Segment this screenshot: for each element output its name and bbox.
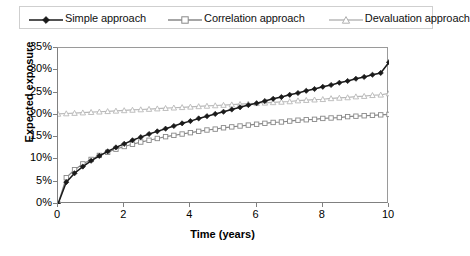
y-tick-mark bbox=[53, 47, 57, 48]
y-tick-mark bbox=[53, 158, 57, 159]
series-marker bbox=[155, 136, 159, 140]
series-marker bbox=[312, 117, 316, 121]
y-tick-label: 15% bbox=[6, 129, 52, 141]
series-marker bbox=[304, 118, 308, 122]
series-marker bbox=[287, 92, 292, 97]
series-marker bbox=[320, 84, 325, 89]
x-tick-label: 4 bbox=[169, 208, 209, 220]
series-canvas bbox=[58, 48, 389, 204]
series-marker bbox=[213, 127, 217, 131]
series-marker bbox=[180, 132, 184, 136]
series-marker bbox=[254, 122, 258, 126]
series-marker bbox=[387, 112, 389, 116]
y-tick-label: 25% bbox=[6, 85, 52, 97]
series-marker bbox=[196, 116, 201, 121]
series-marker bbox=[213, 111, 218, 116]
series-marker bbox=[196, 129, 200, 133]
series-marker bbox=[230, 125, 234, 129]
x-tick-label: 6 bbox=[236, 208, 276, 220]
series-marker bbox=[221, 109, 226, 114]
y-tick-mark bbox=[53, 114, 57, 115]
x-tick-mark bbox=[123, 203, 124, 207]
series-simple-approach bbox=[58, 60, 389, 204]
legend-label-simple-approach: Simple approach bbox=[65, 12, 146, 24]
series-marker bbox=[180, 121, 185, 126]
y-tick-mark bbox=[53, 203, 57, 204]
x-tick-mark bbox=[189, 203, 190, 207]
y-tick-label: 20% bbox=[6, 107, 52, 119]
series-marker bbox=[304, 88, 309, 93]
y-tick-label: 35% bbox=[6, 40, 52, 52]
series-marker bbox=[279, 120, 283, 124]
legend-marker-square-icon bbox=[168, 12, 202, 24]
series-marker bbox=[146, 131, 151, 136]
x-tick-mark bbox=[256, 203, 257, 207]
series-marker bbox=[163, 134, 167, 138]
series-marker bbox=[163, 126, 168, 131]
series-marker bbox=[155, 129, 160, 134]
series-marker bbox=[271, 120, 275, 124]
x-tick-label: 0 bbox=[37, 208, 77, 220]
y-tick-label: 5% bbox=[6, 174, 52, 186]
legend-marker-triangle-icon bbox=[329, 12, 363, 24]
series-marker bbox=[271, 96, 276, 101]
series-marker bbox=[238, 124, 242, 128]
series-marker bbox=[229, 107, 234, 112]
x-tick-label: 10 bbox=[368, 208, 408, 220]
y-tick-mark bbox=[53, 181, 57, 182]
series-marker bbox=[296, 118, 300, 122]
series-marker bbox=[188, 118, 193, 123]
legend-label-correlation-approach: Correlation approach bbox=[204, 12, 305, 24]
chart-legend: Simple approach Correlation approach Dev… bbox=[19, 6, 433, 29]
series-marker bbox=[353, 76, 358, 81]
series-marker bbox=[354, 114, 358, 118]
y-tick-mark bbox=[53, 69, 57, 70]
series-marker bbox=[321, 116, 325, 120]
series-marker bbox=[279, 94, 284, 99]
series-correlation-approach bbox=[58, 112, 389, 204]
y-tick-label: 10% bbox=[6, 151, 52, 163]
series-marker bbox=[288, 119, 292, 123]
series-marker bbox=[370, 72, 375, 77]
x-axis-title: Time (years) bbox=[57, 228, 388, 240]
series-marker bbox=[379, 113, 383, 117]
series-marker bbox=[362, 114, 366, 118]
x-tick-label: 2 bbox=[103, 208, 143, 220]
x-tick-mark bbox=[322, 203, 323, 207]
x-tick-mark bbox=[388, 203, 389, 207]
legend-label-devaluation-approach: Devaluation approach bbox=[365, 12, 470, 24]
series-marker bbox=[246, 123, 250, 127]
x-tick-label: 8 bbox=[302, 208, 342, 220]
series-marker bbox=[328, 82, 333, 87]
series-marker bbox=[345, 114, 349, 118]
series-marker bbox=[345, 78, 350, 83]
series-marker bbox=[329, 116, 333, 120]
series-marker bbox=[172, 133, 176, 137]
series-marker bbox=[312, 86, 317, 91]
series-marker bbox=[370, 113, 374, 117]
y-tick-label: 0% bbox=[6, 196, 52, 208]
series-marker bbox=[337, 80, 342, 85]
series-marker bbox=[337, 115, 341, 119]
y-tick-label: 30% bbox=[6, 62, 52, 74]
series-marker bbox=[221, 126, 225, 130]
series-marker bbox=[139, 140, 143, 144]
series-marker bbox=[362, 74, 367, 79]
legend-item-correlation-approach: Correlation approach bbox=[168, 7, 305, 28]
legend-item-devaluation-approach: Devaluation approach bbox=[329, 7, 470, 28]
y-tick-mark bbox=[53, 92, 57, 93]
series-marker bbox=[138, 135, 143, 140]
series-marker bbox=[205, 128, 209, 132]
series-marker bbox=[204, 114, 209, 119]
x-tick-mark bbox=[57, 203, 58, 207]
series-marker bbox=[188, 130, 192, 134]
series-marker bbox=[295, 90, 300, 95]
series-marker bbox=[171, 123, 176, 128]
series-marker bbox=[263, 121, 267, 125]
y-tick-mark bbox=[53, 136, 57, 137]
series-marker bbox=[147, 138, 151, 142]
plot-area bbox=[57, 47, 388, 203]
